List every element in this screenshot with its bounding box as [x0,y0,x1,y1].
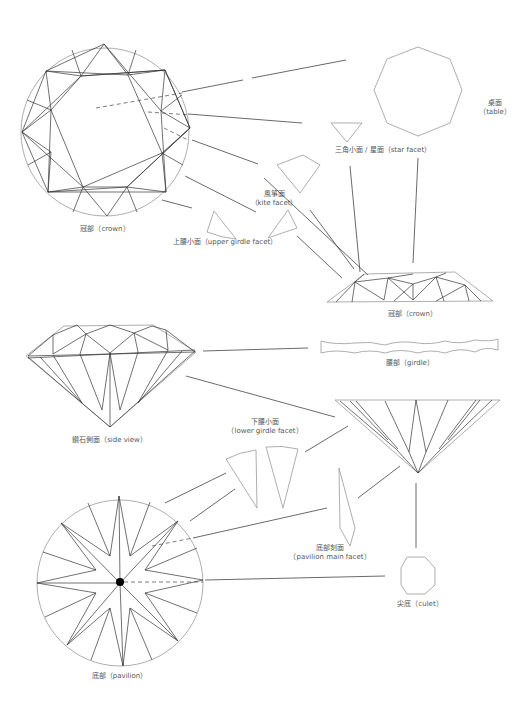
crown-side-leader-lines [264,158,418,278]
label-pavilion-main-facet-zh: 底部刻面 [280,544,380,553]
label-culet: 尖底（culet） [390,600,450,609]
star-facet-triangle [331,123,362,142]
label-pavilion-main-facet-en: （pavilion main facet） [280,553,380,562]
label-lower-girdle-facet-zh: 下腰小面 [215,418,315,427]
pavilion-main-facet-shape [339,468,355,546]
kite-facet-shape [277,155,320,193]
label-star-facet: 三角小面 / 星面（star facet） [328,146,438,155]
label-table: 桌面 （table） [470,99,520,117]
label-kite-facet: 風箏面 （kite facet） [244,190,304,208]
label-crown-top: 冠部（crown） [65,225,145,234]
upper-girdle-facets [207,210,297,239]
label-pavilion-main-facet: 底部刻面 （pavilion main facet） [280,544,380,562]
label-kite-facet-zh: 風箏面 [244,190,304,199]
label-lower-girdle-facet: 下腰小面 （lower girdle facet） [215,418,315,436]
label-table-en: （table） [470,108,520,117]
culet-octagon [401,557,435,594]
label-pavilion: 底部（pavilion） [82,672,157,681]
table-octagon [374,47,462,136]
pavilion-side-profile [335,400,500,473]
diamond-side-view [26,325,196,427]
pavilion-bottom-view [37,496,203,666]
lower-girdle-facets [226,446,298,508]
label-side-view: 鑽石側面（side view） [62,436,157,445]
girdle-strip [321,339,498,353]
label-table-zh: 桌面 [470,99,520,108]
side-view-leader-lines [186,348,335,417]
crown-top-view [21,44,190,216]
label-upper-girdle-facet: 上腰小面（upper girdle facet） [165,238,285,247]
label-lower-girdle-facet-en: （lower girdle facet） [215,427,315,436]
label-kite-facet-en: （kite facet） [244,199,304,208]
label-girdle: 腰部（girdle） [375,359,445,368]
crown-side-profile [327,272,493,302]
culet-point [116,578,124,586]
label-crown-side: 冠部（crown） [375,310,450,319]
